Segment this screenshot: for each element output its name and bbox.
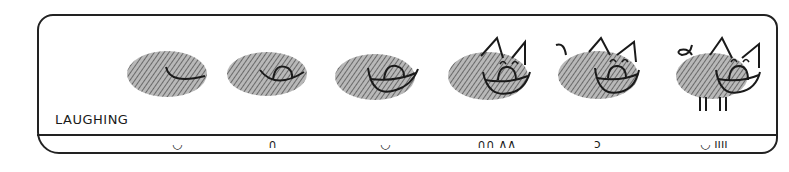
thumbprint-figure-5 — [556, 38, 639, 99]
thumbprint-figure-3 — [335, 54, 418, 100]
symbol-6: ◡ ıııı — [700, 137, 728, 151]
thumbprint-figure-1 — [127, 51, 207, 97]
curly-tail-icon — [678, 45, 692, 55]
figures-layer — [0, 0, 789, 172]
thumbprint-figure-2 — [227, 52, 307, 96]
caption-laughing: LAUGHING — [55, 112, 128, 127]
symbol-1: ◡ — [172, 137, 182, 151]
symbol-4: ∩∩ ∧∧ — [477, 137, 516, 151]
thumbprint-figure-4 — [448, 38, 530, 100]
symbol-3: ◡ — [380, 137, 390, 151]
legs-icon — [700, 97, 726, 111]
symbol-5: ↄ — [594, 137, 601, 151]
thumbprint-figure-6 — [676, 38, 760, 111]
tail-icon — [556, 44, 566, 55]
ear-icon — [742, 44, 759, 68]
symbol-2: ∩ — [268, 137, 277, 151]
